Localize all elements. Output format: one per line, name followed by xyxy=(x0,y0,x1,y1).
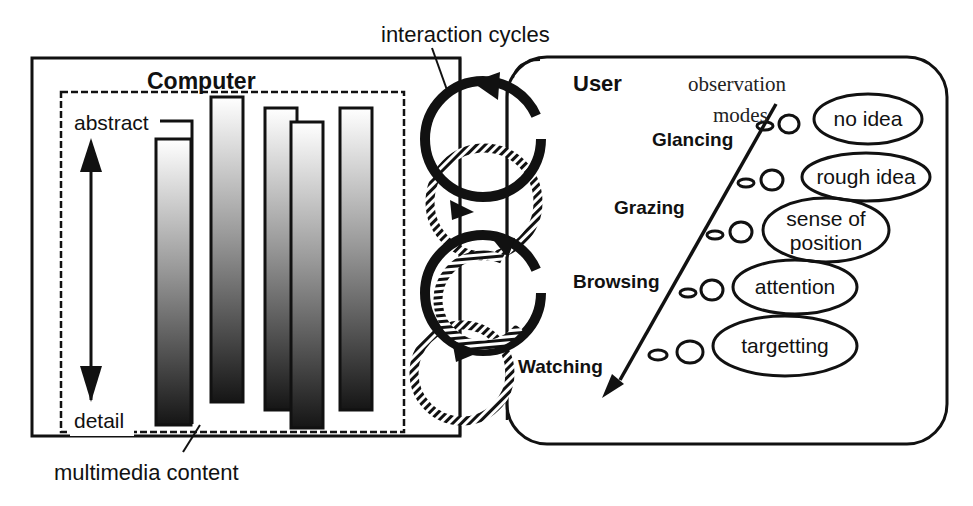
interaction-leader-line xyxy=(432,48,447,90)
thought-attention: attention xyxy=(733,276,857,298)
thought-sense-of-position-line1: sense of xyxy=(763,208,889,230)
detail-label: detail xyxy=(74,410,124,431)
multimedia-leader-line xyxy=(183,425,200,452)
mode-glancing: Glancing xyxy=(652,130,733,149)
computer-title: Computer xyxy=(147,70,256,93)
mode-browsing: Browsing xyxy=(573,272,660,291)
mode-grazing: Grazing xyxy=(614,198,685,217)
observation-modes-label-line1: observation xyxy=(688,74,786,95)
abstract-label: abstract xyxy=(74,112,149,133)
user-title: User xyxy=(573,73,622,95)
thought-no-idea: no idea xyxy=(814,108,922,130)
interaction-cycles-label: interaction cycles xyxy=(381,24,550,46)
content-bars xyxy=(156,97,372,428)
thought-rough-idea: rough idea xyxy=(802,166,930,188)
thought-sense-of-position-line2: position xyxy=(763,232,889,254)
multimedia-content-label: multimedia content xyxy=(54,462,239,484)
abstraction-axis-arrow xyxy=(80,138,102,402)
thought-targetting: targetting xyxy=(713,335,857,357)
mode-watching: Watching xyxy=(518,357,603,376)
observation-modes-label-line2: modes xyxy=(713,105,768,126)
